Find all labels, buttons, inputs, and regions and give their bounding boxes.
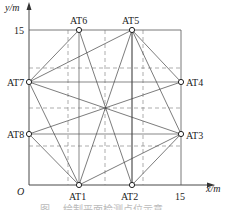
axes (29, 6, 210, 185)
x-axis-label: x/m (205, 183, 220, 194)
sensor-layout-diagram: y/m x/m O 15 15 AT6 AT5 AT7 AT4 AT8 AT3 … (0, 0, 231, 210)
label-at5: AT5 (122, 15, 139, 26)
origin-label: O (17, 186, 24, 197)
label-at7: AT7 (7, 77, 24, 88)
label-at4: AT4 (186, 77, 203, 88)
point-at7 (26, 79, 31, 84)
point-at5 (129, 27, 134, 32)
y-axis-arrow-icon (27, 2, 32, 10)
label-at6: AT6 (70, 15, 87, 26)
figure-caption: 图 ... 绘制平面检测点位示意 (40, 203, 163, 210)
y-axis-label: y/m (4, 2, 19, 13)
label-at3: AT3 (186, 130, 203, 141)
label-at2: AT2 (121, 191, 138, 202)
y-tick-15: 15 (14, 25, 24, 36)
point-at3 (178, 131, 183, 136)
point-at1 (76, 182, 81, 187)
point-at4 (178, 79, 183, 84)
point-at8 (26, 131, 31, 136)
label-at1: AT1 (69, 191, 86, 202)
label-at8: AT8 (7, 129, 24, 140)
dashed-grid (29, 30, 181, 185)
point-at6 (76, 27, 81, 32)
point-at2 (129, 182, 134, 187)
x-tick-15: 15 (175, 191, 185, 202)
